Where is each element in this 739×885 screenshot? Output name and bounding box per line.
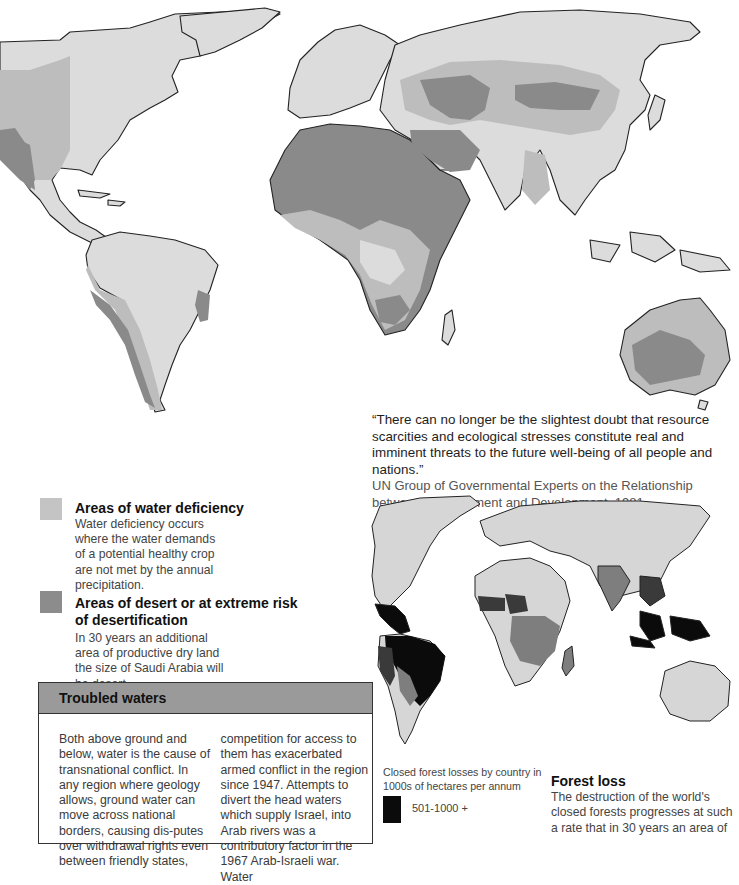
- forest-loss-title: Forest loss: [551, 773, 626, 789]
- forest-loss-high-swatch: [383, 796, 401, 823]
- forest-loss-text: The destruction of the world's closed fo…: [551, 790, 739, 836]
- forest-loss-map: [0, 486, 739, 746]
- troubled-waters-col1: Both above ground and below, water is th…: [59, 732, 211, 885]
- quote-text: “There can no longer be the slightest do…: [372, 412, 737, 478]
- troubled-waters-col2: competition for access to them has exace…: [221, 732, 373, 885]
- forest-legend-caption: Closed forest losses by country in 1000s…: [383, 765, 543, 793]
- water-deficiency-map: [0, 0, 739, 420]
- forest-loss-range-label: 501-1000 +: [412, 802, 468, 814]
